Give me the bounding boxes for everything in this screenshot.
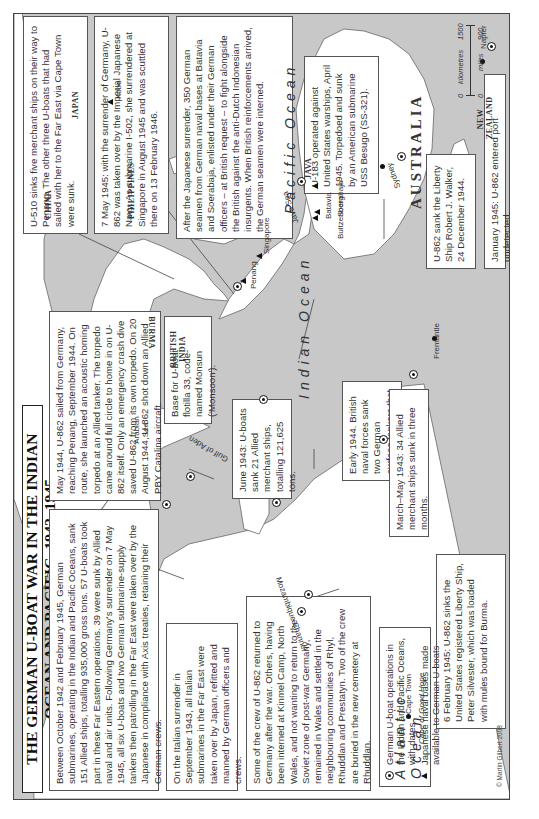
gulf-of-aden-operation-marker[interactable] <box>162 500 171 509</box>
overview-box: Between October 1942 and February 1945, … <box>49 509 159 791</box>
label-arabian-sea: Arabian Sea <box>132 416 150 444</box>
u183-box: U-183 operated against United States war… <box>304 56 379 194</box>
label-soerabaja: Soerabaja <box>336 181 345 217</box>
buitzenborg-base-icon <box>314 209 320 215</box>
cape-town-dot <box>406 714 411 719</box>
copyright: © Martin Gilbert 2008 <box>496 725 503 787</box>
scale-zero-miles: 0 <box>476 94 485 98</box>
label-philippines: PHILIPPINES <box>127 162 136 219</box>
scale-bar: 0 kilometres 1500 0 miles 900 <box>454 16 494 106</box>
label-australia: AUSTRALIA <box>412 94 421 209</box>
mozambique-operation-marker-2[interactable] <box>304 590 313 599</box>
march-may-1943-box: March–May 1943: 34 Allied merchant ships… <box>389 389 429 537</box>
scale-km-label: kilometres <box>456 50 465 84</box>
crew-u862-box: Some of the crew of U-862 returned to Ge… <box>246 596 371 791</box>
june-1943-box: June 1943: U-boats sank 21 Allied mercha… <box>232 399 292 499</box>
label-kobe: Kobe <box>114 80 123 99</box>
label-indian-ocean: Indian Ocean <box>296 256 312 399</box>
sydney-operation-marker[interactable] <box>397 152 406 161</box>
scale-miles-value: 900 <box>476 27 485 40</box>
australia-south-operation-marker[interactable] <box>409 370 418 379</box>
japanese-surrender-box: After the Japanese surrender, 350 German… <box>176 16 293 239</box>
label-cape-of-good-hope: Cape of Good Hope <box>417 673 426 744</box>
south-indian-ocean-operation-marker[interactable] <box>379 435 388 444</box>
scale-miles-label: miles <box>476 53 485 71</box>
label-batavia: Batavia <box>324 192 333 219</box>
label-british-india: BRITISH INDIA <box>169 329 187 369</box>
italian-surrender-box: On the Italian surrender in September 19… <box>166 623 238 791</box>
batavia-base-icon <box>312 215 318 221</box>
feb-1945-box: 6 February 1945: U-862 sinks the United … <box>436 554 506 729</box>
penang-operation-marker[interactable] <box>233 282 242 291</box>
label-singapore: Singapore <box>262 218 271 254</box>
soerabaja-base-icon <box>312 183 318 189</box>
singapore-base-icon <box>256 253 262 259</box>
kobe-base-icon <box>107 99 113 105</box>
label-penang: Penang <box>249 261 258 289</box>
label-burma: BURMA <box>147 316 156 349</box>
map-title: THE GERMAN U-BOAT WAR IN THE INDIAN OCEA… <box>22 405 43 793</box>
robert-walker-box: U-862 sank the Liberty Ship Robert J. Wa… <box>426 154 476 269</box>
label-cape-town: Cape Town <box>404 674 413 714</box>
mid-ocean-operation-marker[interactable] <box>272 498 281 507</box>
fremantle-dot <box>432 336 437 341</box>
map-frame: THE GERMAN U-BOAT WAR IN THE INDIAN OCEA… <box>13 13 510 800</box>
indian-ocean-operation-marker[interactable] <box>259 395 268 404</box>
sydney-dot <box>380 164 385 169</box>
label-china: CHINA <box>44 190 53 219</box>
label-japan: JAPAN <box>71 91 80 119</box>
scale-km-value: 1500 <box>456 23 465 40</box>
label-java: JAVA <box>304 158 313 179</box>
java-operation-marker[interactable] <box>297 177 306 186</box>
mozambique-operation-marker-1[interactable] <box>297 607 306 616</box>
may-1944-box: May 1944, U-862 sailed from Germany, rea… <box>49 311 161 501</box>
arabian-sea-operation-marker[interactable] <box>186 472 195 481</box>
u510-box: U-510 sinks five merchant ships on their… <box>23 16 88 234</box>
scale-zero-km: 0 <box>456 94 465 98</box>
